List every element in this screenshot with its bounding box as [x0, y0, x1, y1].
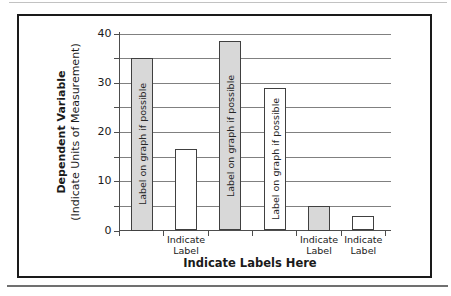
y-tick-label: 40 [86, 27, 112, 40]
gridline [120, 107, 391, 108]
y-axis-tick [114, 107, 120, 108]
x-axis-tick [119, 231, 120, 236]
y-axis-tick [114, 181, 120, 182]
y-axis-tick [114, 206, 120, 207]
y-tick-label: 30 [86, 76, 112, 89]
y-axis-title: Dependent Variable (Indicate Units of Me… [55, 43, 82, 220]
y-tick-label: 0 [86, 224, 112, 237]
y-axis-units-text: (Indicate Units of Measurement) [68, 43, 82, 220]
y-tick-label: 10 [86, 174, 112, 187]
bar-inner-label: Label on graph if possible [225, 75, 236, 197]
x-category-label: Indicate Label [155, 234, 217, 257]
y-axis-tick [114, 157, 120, 158]
x-axis-tick [252, 231, 253, 236]
gridline [120, 132, 391, 133]
x-axis-title: Indicate Labels Here [100, 256, 400, 270]
gridline [120, 58, 391, 59]
gridline [120, 83, 391, 84]
bar [308, 206, 330, 231]
y-axis-tick [114, 132, 120, 133]
bar [352, 216, 374, 231]
y-axis-tick [114, 83, 120, 84]
y-tick-label: 20 [86, 125, 112, 138]
page: 010203040Label on graph if possibleIndic… [0, 0, 451, 296]
x-axis-line [119, 230, 391, 231]
y-axis-title-text: Dependent Variable [55, 43, 69, 220]
bar-inner-label: Label on graph if possible [136, 83, 147, 205]
gridline [120, 206, 391, 207]
bar-inner-label: Label on graph if possible [269, 98, 280, 220]
bar [175, 149, 197, 230]
y-axis-tick [114, 58, 120, 59]
y-axis-tick [114, 34, 120, 35]
gridline [120, 34, 391, 35]
x-category-label: Indicate Label [332, 234, 394, 257]
gridline [120, 157, 391, 158]
gridline [120, 181, 391, 182]
bottom-rule [7, 285, 448, 287]
